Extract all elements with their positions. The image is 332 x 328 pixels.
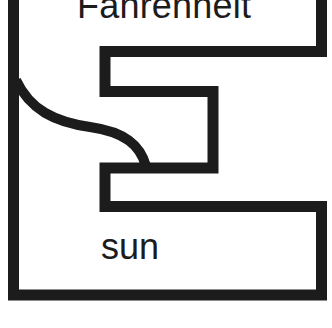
bottom-label: sun xyxy=(101,229,159,265)
outline-path xyxy=(14,0,322,295)
diagram-canvas: Fahrenheit sun xyxy=(0,0,332,328)
top-label: Fahrenheit xyxy=(77,0,251,24)
e-shaped-outline xyxy=(0,0,332,328)
